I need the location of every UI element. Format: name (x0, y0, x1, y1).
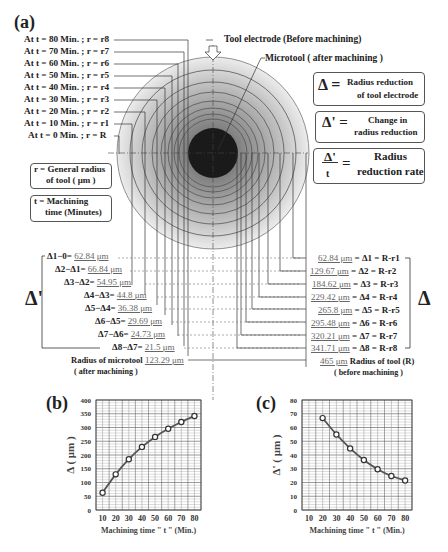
svg-text:250: 250 (81, 438, 92, 446)
t-def-line-1: t = Machining (31, 196, 111, 207)
svg-text:70: 70 (387, 514, 395, 523)
tool-radius: 465 μm Radius of tool (R) (320, 356, 414, 367)
delta-prime-text-2: radius reduction (354, 127, 418, 138)
rate-text-1: Radius (374, 151, 407, 162)
legend-delta: Δ = Radius reduction of tool electrode (313, 72, 425, 106)
delta-text-2: of tool electrode (357, 90, 418, 101)
rate-equals: = (342, 158, 351, 169)
svg-text:20: 20 (319, 514, 327, 523)
r-definition-box: r = General radius of tool ( μm ) (30, 163, 112, 189)
microtool-radius: Radius of microtool 123.29 μm (71, 355, 184, 366)
svg-text:60: 60 (374, 514, 382, 523)
delta-prime-row-5: Δ5−Δ4= 36.38 μm (85, 303, 152, 314)
delta-row-8: 341.71 μm = Δ8 = R-r8 (311, 343, 397, 354)
svg-text:Machining time " t " (Min.): Machining time " t " (Min.) (101, 526, 196, 535)
svg-text:50: 50 (360, 514, 368, 523)
svg-text:30: 30 (125, 514, 133, 523)
tool-radius-note: ( before machining ) (334, 367, 403, 378)
svg-text:70: 70 (177, 514, 185, 523)
delta-row-2: 129.67 μm = Δ2 = R-r2 (310, 266, 396, 277)
delta-prime-symbol: Δ' = (322, 117, 348, 128)
delta-prime-row-4: Δ4−Δ3= 44.8 μm (84, 290, 147, 301)
svg-text:40: 40 (138, 514, 146, 523)
r-def-line-1: r = General radius (31, 164, 111, 175)
svg-text:200: 200 (81, 452, 92, 460)
time-label-0: At t = 0 Min. ; r = R (24, 130, 109, 142)
chart-b: 0501001502002503003504001020304050607080… (40, 395, 220, 545)
delta-prime-text-1: Change in (368, 115, 407, 126)
svg-text:350: 350 (81, 410, 92, 418)
svg-text:Δ ( μm ): Δ ( μm ) (64, 436, 77, 474)
svg-text:60: 60 (290, 424, 298, 432)
microtool-radius-note: ( after machining ) (74, 366, 138, 377)
delta-text-1: Radius reduction (347, 77, 413, 88)
svg-text:10: 10 (290, 493, 298, 501)
svg-text:300: 300 (81, 424, 92, 432)
svg-text:80: 80 (190, 514, 198, 523)
delta-row-7: 320.21 μm = Δ7 = R-r7 (311, 331, 397, 342)
t-definition-box: t = Machining time (Minutes) (30, 195, 112, 222)
svg-text:0: 0 (294, 507, 298, 515)
delta-row-1: 62.84 μm = Δ1 = R-r1 (318, 253, 400, 264)
delta-prime-row-3: Δ3−Δ2= 54.95 μm (64, 277, 131, 288)
delta-prime-row-8: Δ8−Δ7= 21.5 μm (112, 342, 175, 353)
legend-delta-prime: Δ' = Change in radius reduction (315, 111, 425, 143)
svg-text:400: 400 (81, 397, 92, 405)
svg-text:Machining time " t " (Min.): Machining time " t " (Min.) (309, 526, 404, 535)
rate-text-2: reduction rate (357, 166, 424, 177)
delta-bracket-label: Δ (418, 287, 431, 310)
svg-text:20: 20 (112, 514, 120, 523)
delta-row-4: 229.42 μm = Δ4 = R-r4 (311, 292, 397, 303)
time-label-70: At t = 70 Min. ; r = r7 (24, 46, 109, 58)
rate-numerator: Δ' (322, 151, 338, 163)
time-labels: At t = 80 Min. ; r = r8 At t = 70 Min. ;… (24, 34, 109, 142)
delta-prime-row-7: Δ7−Δ6= 24.73 μm (98, 329, 165, 340)
microtool-label: Microtool ( after machining ) (265, 53, 383, 64)
time-label-50: At t = 50 Min. ; r = r5 (24, 70, 109, 82)
t-def-line-2: time (Minutes) (31, 207, 111, 218)
delta-row-5: 265.8 μm = Δ5 = R-r5 (318, 305, 400, 316)
time-label-40: At t = 40 Min. ; r = r4 (24, 82, 109, 94)
svg-text:50: 50 (290, 438, 298, 446)
legend-rate: Δ' t = Radius reduction rate (313, 148, 425, 184)
svg-text:60: 60 (164, 514, 172, 523)
rate-denominator: t (326, 168, 329, 179)
svg-text:10: 10 (99, 514, 107, 523)
delta-prime-row-1: Δ1−0= 62.84 μm (47, 251, 108, 262)
time-label-30: At t = 30 Min. ; r = r3 (24, 94, 109, 106)
svg-text:20: 20 (290, 479, 298, 487)
svg-text:30: 30 (332, 514, 340, 523)
delta-row-3: 184.62 μm = Δ3 = R-r3 (312, 279, 398, 290)
svg-text:0: 0 (88, 507, 92, 515)
svg-text:40: 40 (290, 452, 298, 460)
svg-text:70: 70 (290, 410, 298, 418)
delta-symbol: Δ = (318, 79, 340, 90)
time-label-60: At t = 60 Min. ; r = r6 (24, 58, 109, 70)
r-def-line-2: of tool ( μm ) (31, 175, 111, 186)
time-label-10: At t = 10 Min. ; r = r1 (24, 118, 109, 130)
svg-text:80: 80 (401, 514, 409, 523)
time-label-80: At t = 80 Min. ; r = r8 (24, 34, 109, 46)
svg-text:150: 150 (81, 465, 92, 473)
time-label-20: At t = 20 Min. ; r = r2 (24, 106, 109, 118)
svg-text:Δ' ( μm ): Δ' ( μm ) (270, 434, 283, 475)
svg-text:30: 30 (290, 465, 298, 473)
chart-c: 010203040506070801020304050607080Machini… (262, 395, 448, 545)
delta-prime-row-6: Δ6−Δ5= 29.69 μm (95, 316, 162, 327)
delta-row-6: 295.48 μm = Δ6 = R-r6 (311, 318, 397, 329)
delta-prime-bracket-label: Δ' (25, 287, 43, 310)
svg-text:10: 10 (305, 514, 313, 523)
svg-text:80: 80 (290, 397, 298, 405)
svg-text:50: 50 (151, 514, 159, 523)
delta-prime-row-2: Δ2−Δ1= 66.84 μm (55, 264, 122, 275)
svg-text:50: 50 (84, 493, 92, 501)
svg-text:100: 100 (81, 479, 92, 487)
tool-electrode-label: Tool electrode (Before machining) (224, 34, 361, 45)
svg-text:40: 40 (346, 514, 354, 523)
